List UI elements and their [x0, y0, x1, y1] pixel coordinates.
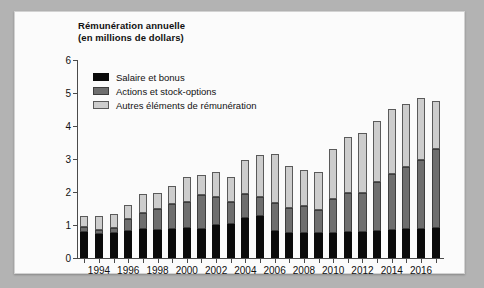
y-tick-label: 4	[65, 121, 71, 132]
bar-segment-2011-1	[344, 193, 352, 232]
x-tick-label-2008: 2008	[293, 265, 315, 276]
bar-2015	[402, 60, 410, 258]
legend-label-2: Autres éléments de rémunération	[116, 100, 256, 111]
chart-legend: Salaire et bonusActions et stock-options…	[93, 71, 256, 113]
bar-segment-2005-1	[256, 197, 264, 216]
y-tick-label: 5	[65, 88, 71, 99]
bar-segment-1993-2	[80, 216, 88, 227]
x-tick-mark-2004	[245, 259, 246, 263]
bar-segment-2012-2	[358, 133, 366, 193]
bar-segment-2004-2	[241, 160, 249, 194]
x-tick-mark-1998	[158, 259, 159, 263]
bar-segment-2009-1	[314, 210, 322, 233]
bar-segment-2003-2	[227, 177, 235, 202]
legend-swatch-0	[93, 73, 109, 81]
x-tick-mark-2007	[289, 259, 290, 263]
bar-2011	[344, 60, 352, 258]
x-tick-mark-2002	[216, 259, 217, 263]
bar-segment-2010-0	[329, 233, 337, 258]
bar-segment-2003-1	[227, 202, 235, 224]
x-tick-mark-2014	[392, 259, 393, 263]
bar-2013	[373, 60, 381, 258]
bar-segment-2016-1	[417, 160, 425, 229]
chart-figure: Rémunération annuelle (en millions de do…	[14, 11, 465, 274]
y-tick-mark	[73, 192, 77, 193]
bar-segment-1995-2	[110, 214, 118, 228]
chart-title: Rémunération annuelle (en millions de do…	[78, 20, 185, 44]
bar-segment-1994-2	[95, 216, 103, 229]
x-tick-mark-2011	[348, 259, 349, 263]
chart-title-line-2: (en millions de dollars)	[78, 32, 185, 44]
bar-segment-2003-0	[227, 224, 235, 258]
bar-segment-2012-0	[358, 232, 366, 258]
bar-segment-1999-1	[168, 204, 176, 229]
x-tick-mark-2000	[187, 259, 188, 263]
bar-segment-2001-1	[197, 195, 205, 229]
bar-segment-2002-2	[212, 172, 220, 196]
x-tick-label-2000: 2000	[176, 265, 198, 276]
x-tick-mark-1995	[114, 259, 115, 263]
bar-2010	[329, 60, 337, 258]
x-tick-mark-2017	[436, 259, 437, 263]
bar-segment-2002-1	[212, 197, 220, 226]
y-tick-label: 0	[65, 253, 71, 264]
x-tick-mark-1996	[128, 259, 129, 263]
x-tick-mark-2008	[304, 259, 305, 263]
bar-segment-2006-2	[271, 154, 279, 204]
bar-segment-2013-2	[373, 121, 381, 182]
x-tick-mark-2005	[260, 259, 261, 263]
x-tick-mark-2001	[201, 259, 202, 263]
x-tick-mark-2013	[377, 259, 378, 263]
bar-segment-1993-0	[80, 232, 88, 258]
bar-2006	[271, 60, 279, 258]
bar-segment-1995-0	[110, 233, 118, 258]
bar-segment-1998-2	[153, 193, 161, 210]
x-tick-mark-1997	[143, 259, 144, 263]
bar-segment-2009-2	[314, 172, 322, 210]
bar-segment-1996-2	[124, 205, 132, 219]
bar-segment-1997-2	[139, 194, 147, 214]
bar-segment-1993-1	[80, 227, 88, 232]
bar-segment-1998-1	[153, 209, 161, 229]
bar-2005	[256, 60, 264, 258]
legend-label-1: Actions et stock-options	[116, 86, 216, 97]
y-tick-label: 1	[65, 220, 71, 231]
bar-segment-2005-0	[256, 216, 264, 258]
bar-2017	[432, 60, 440, 258]
bar-segment-2011-0	[344, 232, 352, 258]
x-tick-label-1998: 1998	[146, 265, 168, 276]
x-tick-label-1996: 1996	[117, 265, 139, 276]
x-tick-label-1994: 1994	[88, 265, 110, 276]
bar-segment-2000-1	[183, 202, 191, 228]
y-tick-mark	[73, 126, 77, 127]
bar-segment-2001-2	[197, 175, 205, 195]
bar-segment-2017-0	[432, 228, 440, 258]
bar-segment-2015-0	[402, 229, 410, 258]
bar-segment-2017-2	[432, 101, 440, 149]
legend-item-2: Autres éléments de rémunération	[93, 99, 256, 111]
bar-segment-2014-2	[388, 109, 396, 174]
y-tick-mark	[73, 60, 77, 61]
bar-segment-2000-2	[183, 177, 191, 202]
y-tick-mark	[73, 225, 77, 226]
x-tick-mark-2012	[362, 259, 363, 263]
bar-segment-2010-1	[329, 199, 337, 233]
x-tick-label-2010: 2010	[322, 265, 344, 276]
x-tick-mark-1993	[84, 259, 85, 263]
bar-segment-2006-0	[271, 231, 279, 258]
chart-title-line-1: Rémunération annuelle	[78, 20, 185, 32]
bar-segment-2009-0	[314, 233, 322, 258]
bar-segment-1994-1	[95, 230, 103, 235]
y-axis-line	[77, 60, 78, 259]
x-tick-mark-2009	[319, 259, 320, 263]
bar-segment-2013-1	[373, 182, 381, 231]
x-tick-label-2014: 2014	[381, 265, 403, 276]
bar-segment-2014-1	[388, 174, 396, 229]
bar-segment-2015-1	[402, 167, 410, 230]
bar-segment-2007-2	[285, 166, 293, 207]
x-tick-mark-2015	[406, 259, 407, 263]
bar-segment-2016-0	[417, 229, 425, 258]
bar-segment-1996-1	[124, 219, 132, 231]
x-tick-mark-2003	[231, 259, 232, 263]
legend-swatch-2	[93, 101, 109, 109]
